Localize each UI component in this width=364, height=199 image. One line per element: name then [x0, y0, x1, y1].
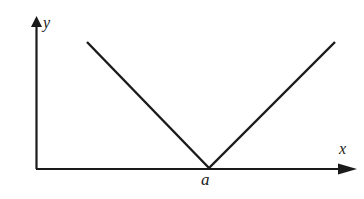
figure-container: y x a [0, 0, 364, 199]
y-axis-arrowhead [31, 16, 42, 27]
curve-left-branch [87, 42, 209, 168]
y-axis-label: y [43, 15, 50, 31]
curve-right-branch [209, 42, 335, 168]
x-axis-arrowhead [338, 164, 357, 175]
x-axis-label: x [339, 141, 346, 157]
vertex-x-label: a [201, 171, 210, 188]
plot-canvas [0, 0, 364, 199]
